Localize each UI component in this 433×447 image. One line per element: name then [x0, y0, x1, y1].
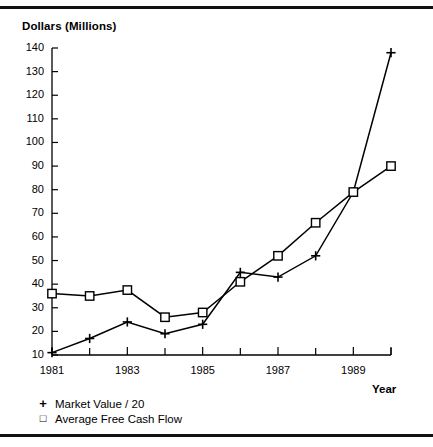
y-tick-label: 100 [14, 135, 44, 147]
y-tick-label: 60 [14, 230, 44, 242]
y-tick-label: 90 [14, 159, 44, 171]
x-tick-label: 1983 [107, 364, 147, 376]
data-point-marker [85, 334, 94, 343]
x-tick-label: 1989 [333, 364, 373, 376]
data-point-marker [311, 251, 320, 260]
legend-item-average-free-cash-flow: □ Average Free Cash Flow [36, 411, 182, 426]
x-tick-label: 1981 [32, 364, 72, 376]
y-tick-label: 130 [14, 65, 44, 77]
y-tick-label: 50 [14, 254, 44, 266]
axes-lines [52, 48, 391, 355]
plot-area [0, 0, 433, 447]
data-point-marker [311, 219, 319, 227]
y-tick-label: 40 [14, 277, 44, 289]
y-tick-label: 80 [14, 183, 44, 195]
data-point-marker [387, 162, 395, 170]
data-point-marker [85, 292, 93, 300]
chart-legend: + Market Value / 20 □ Average Free Cash … [36, 396, 182, 426]
data-point-marker [48, 289, 56, 297]
y-tick-label: 70 [14, 206, 44, 218]
y-tick-label: 120 [14, 88, 44, 100]
x-tick-label: 1985 [183, 364, 223, 376]
y-tick-label: 30 [14, 301, 44, 313]
legend-item-market-value: + Market Value / 20 [36, 396, 182, 411]
data-point-marker [274, 252, 282, 260]
x-tick-label: 1987 [258, 364, 298, 376]
data-point-marker [236, 278, 244, 286]
data-point-marker [161, 313, 169, 321]
data-point-marker [123, 317, 132, 326]
legend-label: Market Value / 20 [55, 398, 144, 410]
tick-marks [52, 48, 391, 355]
y-tick-label: 20 [14, 324, 44, 336]
chart-figure: Dollars (Millions) Year 1020304050607080… [0, 0, 433, 447]
y-tick-label: 140 [14, 41, 44, 53]
data-series [47, 48, 395, 357]
data-point-marker [123, 286, 131, 294]
data-point-marker [160, 329, 169, 338]
y-tick-label: 10 [14, 348, 44, 360]
data-point-marker [198, 308, 206, 316]
y-tick-label: 110 [14, 112, 44, 124]
data-point-marker [273, 272, 282, 281]
plus-marker-icon: + [36, 397, 50, 410]
data-point-marker [349, 188, 357, 196]
square-marker-icon: □ [36, 413, 50, 424]
data-point-marker [386, 48, 395, 57]
data-point-marker [47, 348, 56, 357]
legend-label: Average Free Cash Flow [55, 413, 182, 425]
